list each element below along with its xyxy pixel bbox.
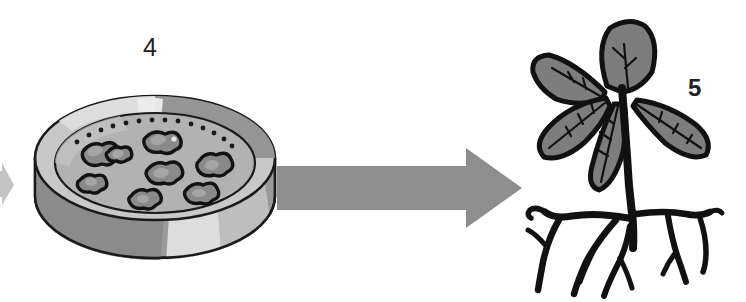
plantlet bbox=[528, 21, 722, 296]
diagram-artwork bbox=[0, 0, 746, 302]
stem bbox=[622, 88, 632, 214]
step-label-5: 5 bbox=[688, 76, 701, 100]
petri-dish bbox=[35, 94, 275, 262]
leaf-upper-left bbox=[533, 55, 605, 103]
root-system bbox=[528, 208, 722, 296]
figure-canvas: 4 5 bbox=[0, 0, 746, 302]
transition-arrow bbox=[277, 148, 522, 228]
step-label-4: 4 bbox=[143, 35, 157, 60]
incoming-arrow-fragment bbox=[0, 163, 14, 205]
